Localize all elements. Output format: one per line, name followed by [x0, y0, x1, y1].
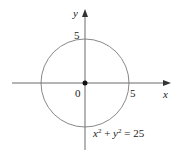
x-tick-label: 5: [130, 87, 136, 99]
y-axis-arrow-icon: [82, 9, 88, 17]
x-axis-arrow-icon: [163, 80, 171, 86]
x-axis-label: x: [162, 88, 168, 100]
origin-label: 0: [75, 87, 81, 99]
origin-point: [83, 81, 88, 86]
y-tick-label: 5: [74, 29, 80, 41]
circle-diagram: y x 0 5 5 x2 + y2 = 25: [0, 0, 180, 156]
equation-label: x2 + y2 = 25: [92, 127, 145, 139]
y-axis-label: y: [72, 7, 78, 19]
